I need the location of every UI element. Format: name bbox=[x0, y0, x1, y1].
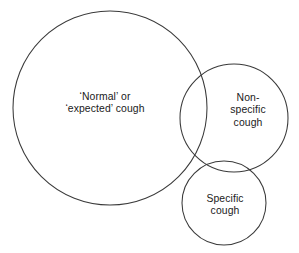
venn-diagram: ‘Normal’ or ‘expected’ cough Non- specif… bbox=[0, 0, 299, 253]
label-non-specific-cough: Non- specific cough bbox=[212, 92, 284, 129]
label-normal-expected-cough: ‘Normal’ or ‘expected’ cough bbox=[30, 91, 180, 116]
label-specific-cough: Specific cough bbox=[189, 193, 261, 218]
